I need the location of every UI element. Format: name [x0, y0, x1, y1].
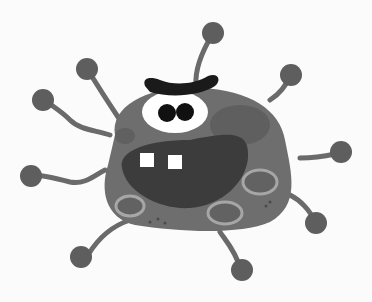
- pupil-right: [176, 103, 194, 121]
- tentacle-bottom-left: [88, 220, 130, 255]
- ball-bottom: [231, 259, 253, 281]
- tentacle-lower-left: [32, 170, 105, 183]
- ball-upper-left: [76, 58, 98, 80]
- tentacle-left: [45, 100, 110, 135]
- ball-lower-left: [20, 165, 42, 187]
- ball-upper-right: [280, 64, 302, 86]
- ball-right: [330, 141, 352, 163]
- body-shade-small: [115, 128, 135, 144]
- ball-bottom-right: [305, 212, 327, 234]
- germ-illustration: [0, 0, 372, 302]
- spot-right: [243, 170, 277, 194]
- ball-bottom-left: [70, 246, 92, 268]
- tooth-left: [140, 153, 154, 167]
- pupil-left: [158, 104, 176, 122]
- ball-left: [32, 89, 54, 111]
- spot-bottom: [208, 202, 242, 224]
- spot-left: [116, 196, 144, 216]
- tooth-right: [168, 155, 182, 169]
- ball-top: [202, 22, 224, 44]
- illustration-canvas: [0, 0, 372, 302]
